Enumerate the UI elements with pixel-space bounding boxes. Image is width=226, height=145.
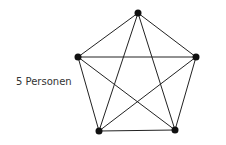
- edge: [99, 13, 138, 131]
- nodes: [75, 10, 200, 135]
- edge: [138, 13, 196, 57]
- edge: [175, 57, 196, 130]
- edges: [78, 13, 196, 131]
- edge: [99, 57, 196, 131]
- edge: [99, 130, 175, 131]
- edge: [78, 57, 175, 130]
- edge: [78, 57, 99, 131]
- person-node: [75, 54, 82, 61]
- person-node: [193, 54, 200, 61]
- person-node: [96, 128, 103, 135]
- edge: [138, 13, 175, 130]
- complete-graph: [0, 0, 226, 145]
- person-node: [172, 127, 179, 134]
- edge: [78, 13, 138, 57]
- person-node: [135, 10, 142, 17]
